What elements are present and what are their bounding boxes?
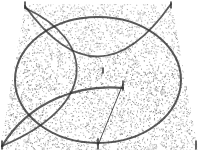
diagram-canvas — [0, 0, 198, 153]
fade-overlay — [0, 0, 198, 153]
stippled-geometry-diagram — [0, 0, 198, 153]
